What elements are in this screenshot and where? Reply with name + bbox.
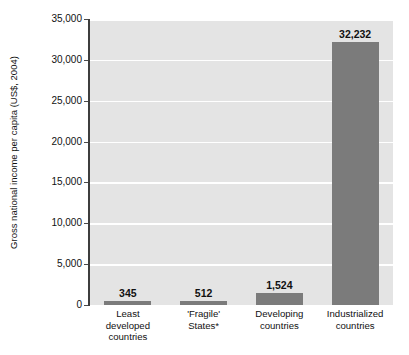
y-tick-label: 20,000 bbox=[20, 137, 82, 147]
y-tick-label: 30,000 bbox=[20, 55, 82, 65]
bar bbox=[104, 301, 151, 305]
x-category-label-line: Industrialized bbox=[317, 308, 393, 320]
y-tick-label: 5,000 bbox=[20, 259, 82, 269]
x-category-label-line: countries bbox=[317, 320, 393, 332]
x-category-label-line: Least bbox=[90, 308, 166, 320]
x-category-label: Developingcountries bbox=[242, 308, 318, 331]
x-category-label: 'Fragile'States* bbox=[166, 308, 242, 331]
x-category-label: Leastdevelopedcountries bbox=[90, 308, 166, 343]
bar-value-label: 32,232 bbox=[310, 29, 400, 40]
x-category-label-line: 'Fragile' bbox=[166, 308, 242, 320]
y-tick-label: 10,000 bbox=[20, 218, 82, 228]
y-axis-tick-labels: 05,00010,00015,00020,00025,00030,00035,0… bbox=[20, 0, 82, 320]
x-category-label-line: countries bbox=[90, 331, 166, 343]
y-tick-label: 0 bbox=[20, 300, 82, 310]
y-tick-label: 15,000 bbox=[20, 177, 82, 187]
gridline bbox=[90, 19, 393, 21]
bar-value-label: 1,524 bbox=[234, 280, 324, 291]
x-axis-category-labels: Leastdevelopedcountries'Fragile'States*D… bbox=[90, 308, 393, 354]
plot-area bbox=[90, 19, 393, 305]
bar bbox=[180, 301, 227, 305]
bar-chart-figure: Gross national income per capita (US$, 2… bbox=[0, 0, 409, 355]
bar bbox=[332, 42, 379, 305]
x-category-label-line: Developing bbox=[242, 308, 318, 320]
x-category-label-line: developed bbox=[90, 320, 166, 332]
bar bbox=[256, 293, 303, 305]
x-category-label-line: States* bbox=[166, 320, 242, 332]
x-category-label: Industrializedcountries bbox=[317, 308, 393, 331]
x-category-label-line: countries bbox=[242, 320, 318, 332]
y-tick-label: 35,000 bbox=[20, 14, 82, 24]
y-tick-label: 25,000 bbox=[20, 96, 82, 106]
